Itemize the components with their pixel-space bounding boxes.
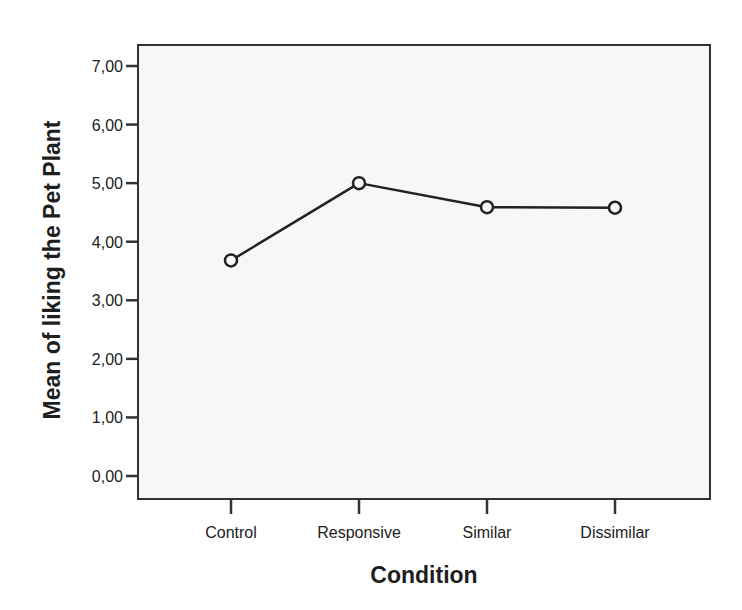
x-tick-label: Similar [463,524,513,541]
x-tick-label: Responsive [317,524,401,541]
data-point-marker [353,177,365,189]
x-axis: ControlResponsiveSimilarDissimilar [205,499,650,541]
y-tick-label: 2,00 [92,351,123,368]
y-tick-label: 5,00 [92,175,123,192]
data-point-marker [481,201,493,213]
y-tick-label: 3,00 [92,292,123,309]
x-tick-label: Dissimilar [580,524,650,541]
y-tick-label: 4,00 [92,234,123,251]
plot-area [138,45,710,499]
y-axis: 0,001,002,003,004,005,006,007,00 [92,58,138,485]
line-chart: 0,001,002,003,004,005,006,007,00 Control… [0,0,742,610]
y-tick-label: 7,00 [92,58,123,75]
y-axis-title: Mean of liking the Pet Plant [39,120,65,419]
x-tick-label: Control [205,524,257,541]
y-tick-label: 0,00 [92,468,123,485]
y-tick-label: 6,00 [92,117,123,134]
data-point-marker [225,254,237,266]
data-point-marker [609,202,621,214]
y-tick-label: 1,00 [92,409,123,426]
x-axis-title: Condition [370,562,477,588]
